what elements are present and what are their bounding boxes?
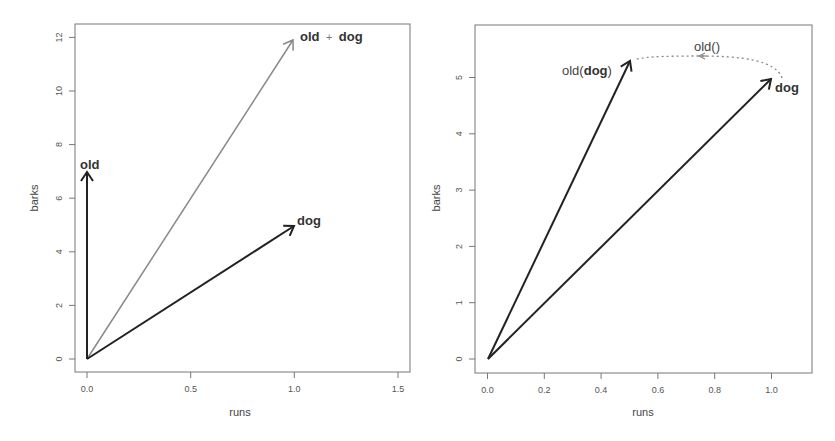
right-y-axis: 0 1 2 3 4 5 barks	[430, 75, 475, 362]
label-sum-plus: +	[326, 31, 332, 43]
left-ytick-label: 4	[54, 249, 64, 254]
right-xtick-label: 1.0	[765, 385, 778, 395]
label-transform-old: old()	[694, 39, 720, 54]
label-old-dog-prefix: old(	[562, 63, 584, 78]
left-ytick-label: 8	[54, 142, 64, 147]
label-sum-old: old	[300, 29, 320, 44]
right-ytick-label: 3	[454, 188, 464, 193]
left-plot-frame	[75, 24, 410, 372]
label-dog: dog	[775, 80, 799, 95]
vector-dog	[488, 79, 771, 359]
right-ytick-label: 0	[454, 356, 464, 361]
vector-old-dog	[488, 61, 630, 359]
label-sum-dog: dog	[339, 29, 363, 44]
label-old-plus-dog: old + dog	[300, 27, 363, 44]
left-xtick-label: 1.0	[288, 384, 301, 394]
transform-curve	[635, 56, 782, 78]
right-xtick-label: 0.0	[481, 385, 494, 395]
left-ytick-label: 6	[54, 196, 64, 201]
label-old-dog-bold: dog	[584, 63, 608, 78]
left-ytick-label: 10	[54, 86, 64, 96]
left-ytick-label: 0	[54, 356, 64, 361]
left-x-axis-label: runs	[229, 406, 251, 418]
vector-dog	[87, 226, 294, 359]
vector-old-plus-dog	[87, 40, 293, 359]
right-xtick-label: 0.4	[595, 385, 608, 395]
label-dog: dog	[297, 213, 321, 228]
left-y-axis-label: barks	[28, 184, 40, 211]
label-old-dog: old(dog)	[562, 63, 612, 78]
right-ytick-label: 1	[454, 300, 464, 305]
label-old-dog-suffix: )	[608, 63, 612, 78]
right-ytick-label: 5	[454, 75, 464, 80]
figure: 0 2 4 6 8 10 12 barks 0.0 0.5 1.0 1.5 ru…	[0, 0, 835, 441]
right-plot: 0 1 2 3 4 5 barks 0.0 0.2 0.4 0.6 0.8 1.…	[430, 25, 812, 418]
left-ytick-label: 2	[54, 303, 64, 308]
left-y-axis: 0 2 4 6 8 10 12 barks	[28, 32, 75, 361]
left-plot: 0 2 4 6 8 10 12 barks 0.0 0.5 1.0 1.5 ru…	[28, 24, 410, 418]
right-ytick-label: 2	[454, 244, 464, 249]
right-xtick-label: 0.2	[538, 385, 551, 395]
left-x-axis: 0.0 0.5 1.0 1.5 runs	[81, 372, 405, 418]
label-old: old	[80, 157, 100, 172]
left-ytick-label: 12	[54, 32, 64, 42]
right-x-axis: 0.0 0.2 0.4 0.6 0.8 1.0 runs	[481, 373, 778, 418]
right-y-axis-label: barks	[430, 184, 442, 211]
left-xtick-label: 0.5	[184, 384, 197, 394]
right-xtick-label: 0.6	[652, 385, 665, 395]
left-xtick-label: 1.5	[392, 384, 405, 394]
left-xtick-label: 0.0	[81, 384, 94, 394]
right-xtick-label: 0.8	[708, 385, 721, 395]
right-x-axis-label: runs	[632, 406, 654, 418]
right-ytick-label: 4	[454, 131, 464, 136]
